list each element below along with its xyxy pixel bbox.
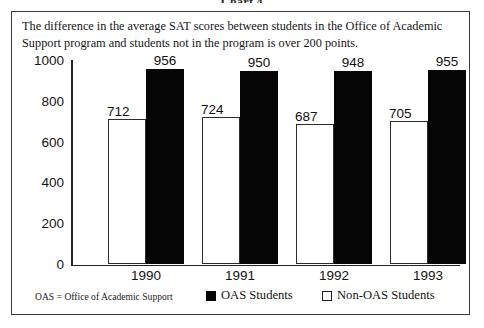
bar-group-1990: 712 956 (108, 60, 184, 264)
bar-non-oas-1990[interactable]: 712 (108, 119, 146, 264)
legend-label-oas: OAS Students (221, 288, 293, 303)
bar-oas-1992[interactable]: 948 (334, 71, 372, 264)
y-axis-line (71, 60, 73, 266)
bar-oas-1993[interactable]: 955 (428, 70, 466, 265)
y-tick-label: 1000 (34, 53, 64, 68)
legend-swatch-oas-icon (206, 291, 216, 301)
legend-label-non-oas: Non-OAS Students (337, 288, 435, 303)
bar-value-label: 948 (342, 55, 365, 70)
y-tick-label: 400 (41, 175, 64, 190)
bar-group-1993: 705 955 (390, 60, 466, 264)
bar-value-label: 956 (154, 53, 177, 68)
bar-value-label: 955 (436, 54, 459, 69)
legend: OAS = Office of Academic Support OAS Stu… (22, 289, 461, 305)
chart-title: Chart 4 (0, 0, 484, 3)
legend-item-non-oas[interactable]: Non-OAS Students (322, 288, 435, 303)
bar-group-1992: 687 948 (296, 60, 372, 264)
bar-non-oas-1993[interactable]: 705 (390, 121, 428, 265)
figure-frame: The difference in the average SAT scores… (11, 11, 470, 315)
legend-item-oas[interactable]: OAS Students (206, 288, 293, 303)
bar-oas-1990[interactable]: 956 (146, 69, 184, 264)
x-tick-label-1990: 1990 (131, 268, 161, 283)
bar-non-oas-1992[interactable]: 687 (296, 124, 334, 264)
bar-value-label: 687 (295, 109, 318, 124)
bar-oas-1991[interactable]: 950 (240, 71, 278, 265)
legend-footnote: OAS = Office of Academic Support (35, 291, 173, 302)
bar-value-label: 712 (107, 104, 130, 119)
x-tick-label-1992: 1992 (319, 268, 349, 283)
y-tick-label: 800 (41, 93, 64, 108)
y-tick-label: 0 (56, 257, 64, 272)
caption-text: The difference in the average SAT scores… (22, 18, 458, 51)
y-tick-label: 600 (41, 134, 64, 149)
plot-area: 0 200 400 600 800 1000 712 956 1990 724 … (71, 60, 460, 266)
x-axis-line (71, 265, 460, 267)
bar-value-label: 950 (248, 55, 271, 70)
bar-value-label: 724 (201, 102, 224, 117)
bar-value-label: 705 (389, 106, 412, 121)
bar-non-oas-1991[interactable]: 724 (202, 117, 240, 265)
x-tick-label-1993: 1993 (413, 268, 443, 283)
y-tick-label: 200 (41, 216, 64, 231)
x-tick-label-1991: 1991 (225, 268, 255, 283)
bar-group-1991: 724 950 (202, 60, 278, 264)
legend-swatch-non-oas-icon (322, 291, 332, 301)
